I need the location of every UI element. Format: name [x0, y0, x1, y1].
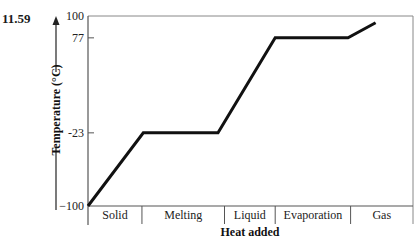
- x-axis-regions: SolidMeltingLiquidEvaporationGas: [102, 206, 391, 224]
- up-arrow-icon: [53, 16, 60, 25]
- heating-curve-line: [88, 23, 376, 206]
- y-tick-label: 77: [72, 31, 84, 45]
- region-label-liquid: Liquid: [234, 208, 266, 222]
- y-axis-title: Temperature (°C): [49, 64, 63, 155]
- y-tick-label: 100: [66, 9, 84, 23]
- y-tick-label: -23: [68, 126, 84, 140]
- region-label-solid: Solid: [102, 208, 127, 222]
- y-axis-title-group: Temperature (°C): [49, 16, 63, 210]
- y-axis-ticks: 10077-23−100: [59, 9, 94, 213]
- region-label-melting: Melting: [164, 208, 202, 222]
- y-tick-label: −100: [59, 199, 84, 213]
- region-label-evaporation: Evaporation: [284, 208, 343, 222]
- x-axis-title: Heat added: [220, 225, 279, 239]
- plot-frame: [88, 16, 413, 225]
- heating-curve-chart: 10077-23−100 SolidMeltingLiquidEvaporati…: [0, 0, 419, 241]
- region-label-gas: Gas: [372, 208, 391, 222]
